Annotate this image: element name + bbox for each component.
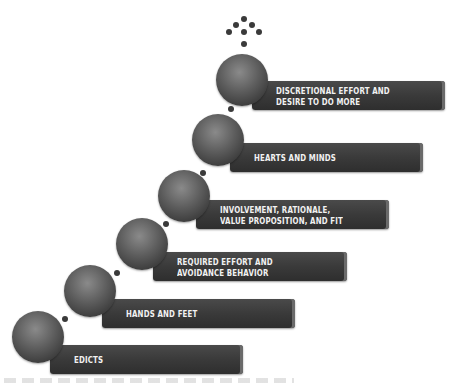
step-label: REQUIRED EFFORT AND AVOIDANCE BEHAVIOR — [177, 252, 273, 281]
faint-caption-strip — [4, 378, 294, 383]
sparkle-dot — [233, 22, 239, 28]
sparkle-dot — [241, 29, 247, 35]
step-ball — [64, 265, 116, 317]
connector-dot — [228, 106, 234, 112]
sparkle-dot — [241, 16, 247, 22]
step-label: HANDS AND FEET — [126, 299, 197, 328]
step-ball — [116, 218, 168, 270]
step-label: DISCRETIONAL EFFORT AND DESIRE TO DO MOR… — [276, 81, 390, 110]
connector-dot — [163, 221, 169, 227]
step-bar: REQUIRED EFFORT AND AVOIDANCE BEHAVIOR — [153, 252, 347, 281]
step-bar: DISCRETIONAL EFFORT AND DESIRE TO DO MOR… — [252, 81, 445, 110]
step-bar: EDICTS — [50, 345, 243, 374]
sparkle-dot — [241, 41, 247, 47]
step-bar: HANDS AND FEET — [102, 299, 295, 328]
sparkle-dot — [226, 29, 232, 35]
step-label: INVOLVEMENT, RATIONALE, VALUE PROPOSITIO… — [220, 200, 343, 229]
step-label: HEARTS AND MINDS — [254, 143, 336, 172]
step-bar: INVOLVEMENT, RATIONALE, VALUE PROPOSITIO… — [196, 200, 389, 229]
sparkle-dot — [256, 29, 262, 35]
step-ball — [216, 54, 268, 106]
step-ball — [12, 311, 64, 363]
connector-dot — [200, 170, 206, 176]
sparkle-dot — [249, 22, 255, 28]
step-label: EDICTS — [74, 345, 103, 374]
connector-dot — [62, 316, 68, 322]
step-ball — [192, 114, 244, 166]
step-bar: HEARTS AND MINDS — [230, 143, 423, 172]
step-ball — [158, 170, 210, 222]
connector-dot — [114, 270, 120, 276]
